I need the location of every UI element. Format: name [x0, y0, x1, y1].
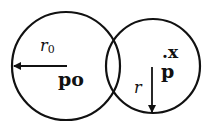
x-label: .x [162, 44, 178, 61]
r0-label-subscript: 0 [48, 43, 55, 56]
r0-label: r0 [40, 38, 55, 55]
r0-label-main: r [40, 36, 48, 55]
p0-label-main: p [58, 68, 71, 90]
p0-label-subscript: o [71, 68, 84, 90]
r-label: r [134, 80, 142, 96]
two-circles-diagram: r0 po .x p r [0, 0, 212, 129]
diagram-canvas [0, 0, 212, 129]
p-label: p [161, 62, 174, 81]
p0-label: po [58, 70, 84, 89]
